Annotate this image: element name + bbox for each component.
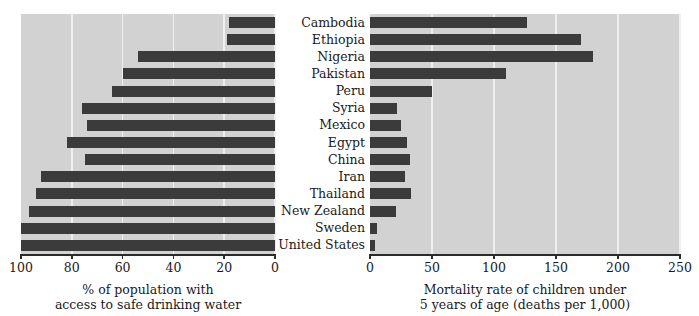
axis-tick-label: 20 <box>199 261 249 275</box>
axis-tick <box>431 254 433 259</box>
bar <box>82 103 275 114</box>
bar <box>370 137 407 148</box>
gridline <box>493 14 495 254</box>
bar <box>112 86 275 97</box>
dual-bar-chart-figure: 100806040200 % of population with access… <box>0 0 699 316</box>
gridline <box>617 14 619 254</box>
axis-tick-label: 50 <box>407 261 457 275</box>
axis-tick <box>71 254 73 259</box>
axis-tick <box>20 254 22 259</box>
bar <box>370 120 401 131</box>
bar <box>370 103 397 114</box>
bar <box>85 154 276 165</box>
bar <box>21 240 275 251</box>
category-label: Mexico <box>319 118 365 132</box>
category-label: Nigeria <box>317 50 365 64</box>
bar <box>29 206 275 217</box>
axis-line <box>370 254 680 256</box>
axis-tick-label: 0 <box>345 261 395 275</box>
bar <box>87 120 275 131</box>
x-axis-caption-mortality-line1: Mortality rate of children under <box>370 282 680 297</box>
category-label: China <box>328 153 365 167</box>
bar <box>370 188 411 199</box>
gridline <box>274 14 276 254</box>
plot-area-water-access <box>21 14 275 254</box>
axis-tick <box>679 254 681 259</box>
gridline <box>223 14 225 254</box>
category-label: Peru <box>336 84 365 98</box>
bar <box>370 154 410 165</box>
category-axis-labels: CambodiaEthiopiaNigeriaPakistanPeruSyria… <box>277 14 367 254</box>
axis-tick-label: 150 <box>531 261 581 275</box>
axis-tick-label: 60 <box>98 261 148 275</box>
axis-tick-label: 100 <box>469 261 519 275</box>
axis-tick-label: 80 <box>47 261 97 275</box>
bar <box>67 137 275 148</box>
axis-tick-label: 200 <box>593 261 643 275</box>
category-label: Cambodia <box>301 16 365 30</box>
gridline <box>122 14 124 254</box>
axis-tick <box>223 254 225 259</box>
gridline <box>431 14 433 254</box>
category-label: Thailand <box>310 187 365 201</box>
gridline <box>679 14 681 254</box>
axis-tick-label: 40 <box>148 261 198 275</box>
axis-tick <box>369 254 371 259</box>
bar <box>21 223 275 234</box>
axis-tick <box>617 254 619 259</box>
axis-tick-label: 250 <box>655 261 699 275</box>
axis-tick-label: 100 <box>0 261 46 275</box>
bar <box>123 68 275 79</box>
gridline <box>555 14 557 254</box>
axis-tick <box>173 254 175 259</box>
x-axis-caption-mortality-line2: 5 years of age (deaths per 1,000) <box>370 297 680 312</box>
category-label: Syria <box>332 101 365 115</box>
bar <box>370 34 581 45</box>
bar <box>370 86 432 97</box>
category-label: United States <box>278 238 365 252</box>
bar <box>370 171 405 182</box>
bar <box>36 188 275 199</box>
bar <box>227 34 275 45</box>
axis-tick <box>122 254 124 259</box>
category-label: Iran <box>339 170 365 184</box>
bar <box>138 51 275 62</box>
bar <box>229 17 275 28</box>
x-axis-caption-water-line2: access to safe drinking water <box>21 297 275 312</box>
category-label: Ethiopia <box>312 33 365 47</box>
axis-line <box>21 254 275 256</box>
x-axis-caption-water-line1: % of population with <box>21 282 275 297</box>
axis-tick <box>493 254 495 259</box>
bar <box>370 68 506 79</box>
category-label: Sweden <box>315 221 365 235</box>
plot-area-child-mortality <box>370 14 680 254</box>
category-label: New Zealand <box>281 204 365 218</box>
category-label: Pakistan <box>311 67 365 81</box>
bar <box>370 206 396 217</box>
category-label: Egypt <box>328 136 365 150</box>
gridline <box>173 14 175 254</box>
bar <box>41 171 275 182</box>
axis-tick <box>274 254 276 259</box>
gridline <box>71 14 73 254</box>
bar <box>370 223 377 234</box>
axis-tick <box>555 254 557 259</box>
bar <box>370 240 375 251</box>
bar <box>370 17 527 28</box>
bar <box>370 51 593 62</box>
axis-tick-label: 0 <box>250 261 300 275</box>
